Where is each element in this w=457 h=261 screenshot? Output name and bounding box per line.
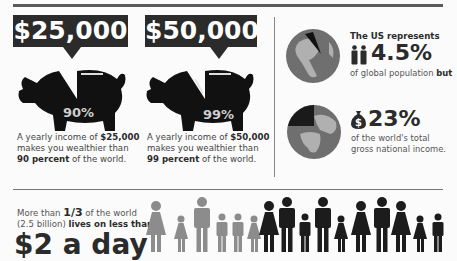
piggy-bank-icon	[15, 63, 130, 133]
population-percent: 4.5%	[371, 40, 432, 65]
gni-percent: 23%	[368, 106, 421, 131]
people-icon	[350, 45, 368, 65]
globe-africa-icon	[286, 104, 342, 160]
poverty-headline: $2 a day	[14, 230, 148, 260]
piggy-bank-icon	[143, 63, 258, 133]
people-row	[145, 197, 457, 252]
svg-text:$: $	[355, 117, 362, 128]
gray-figures	[146, 197, 261, 252]
callout-pointer	[63, 47, 81, 59]
pig-percent: 90%	[63, 105, 94, 120]
callout-pointer	[210, 47, 228, 59]
black-figures	[259, 197, 444, 252]
globe-americas-icon	[285, 28, 341, 84]
poverty-text: More than 1/3 of the world (2.5 billion)…	[17, 207, 153, 230]
pig-percent: 99%	[203, 107, 234, 122]
income-label: $25,000	[13, 15, 128, 47]
middle-divider	[13, 189, 443, 190]
population-sub: of global population but	[350, 68, 452, 79]
gni-sub: of the world's totalgross national incom…	[351, 133, 446, 155]
top-divider	[13, 4, 443, 7]
income-label: $50,000	[145, 15, 257, 47]
money-bag-icon: $	[350, 110, 367, 130]
vertical-divider	[274, 17, 275, 177]
income-caption: A yearly income of $25,000 makes you wea…	[17, 132, 139, 165]
income-caption: A yearly income of $50,000 makes you wea…	[147, 132, 269, 165]
